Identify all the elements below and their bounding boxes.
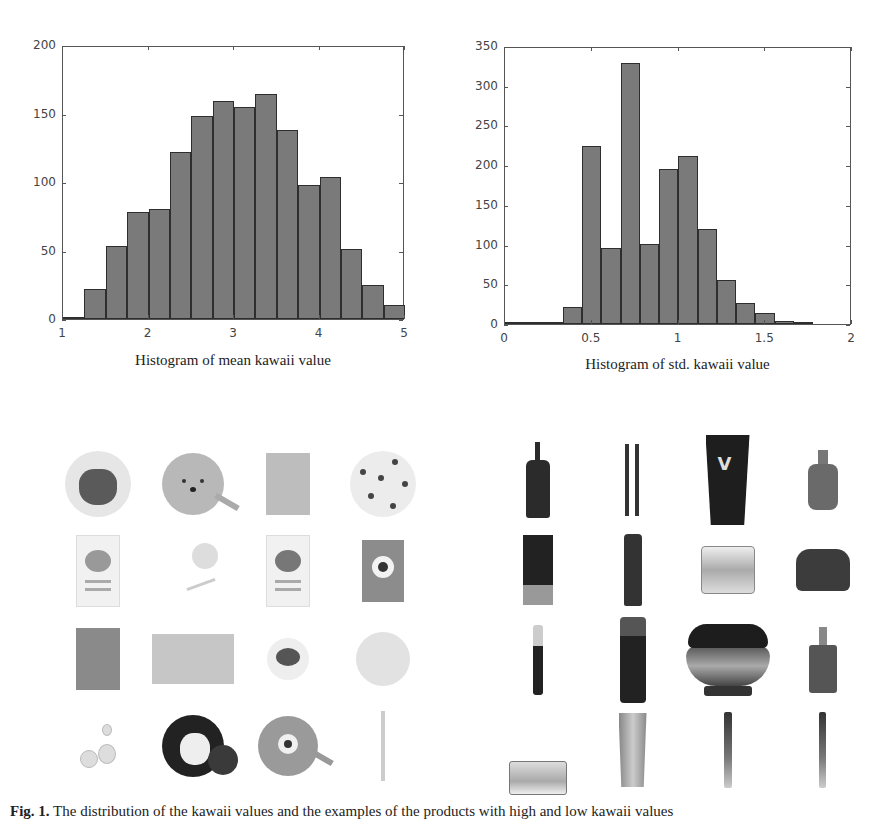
high-kawaii-product-grid [50, 440, 430, 790]
y-tick-mark [504, 126, 508, 127]
histogram-bar [582, 146, 601, 324]
product-image [490, 435, 585, 525]
x-tick-mark [764, 47, 765, 51]
x-tick-mark [591, 320, 592, 324]
figure-label: Fig. 1. [10, 803, 50, 819]
low-kawaii-product-grid: V [490, 435, 870, 795]
y-tick-mark [846, 166, 850, 167]
product-image [490, 615, 585, 705]
product-image [585, 705, 680, 795]
figure-caption-text: The distribution of the kawaii values an… [53, 803, 673, 819]
y-tick-mark [504, 166, 508, 167]
histogram-bar [717, 280, 736, 324]
histogram-bar [524, 322, 543, 324]
product-image [775, 525, 870, 615]
x-tick-mark [504, 47, 505, 51]
histogram-bar [601, 248, 620, 324]
y-tick-mark [504, 246, 508, 247]
product-image [240, 440, 335, 528]
product-image: V [680, 435, 775, 525]
product-image [240, 528, 335, 616]
y-tick-mark [846, 285, 850, 286]
product-image [585, 615, 680, 705]
histogram-bar [621, 63, 640, 324]
product-image [240, 703, 335, 791]
y-tick-label: 0 [462, 317, 498, 331]
product-image [145, 528, 240, 616]
y-tick-label: 100 [462, 238, 498, 252]
y-tick-mark [846, 325, 850, 326]
histogram-bar [794, 322, 813, 324]
histogram-bar [505, 322, 524, 324]
y-tick-label: 50 [462, 277, 498, 291]
plot-area [504, 47, 851, 325]
histogram-bar [563, 307, 582, 324]
product-image [680, 525, 775, 615]
y-tick-mark [504, 206, 508, 207]
x-tick-mark [851, 320, 852, 324]
product-image [490, 705, 585, 795]
x-tick-label: 0.5 [576, 331, 606, 345]
y-tick-mark [846, 47, 850, 48]
product-image [775, 705, 870, 795]
product-image [585, 435, 680, 525]
histogram-bar [698, 229, 717, 324]
x-tick-mark [591, 47, 592, 51]
product-image [145, 440, 240, 528]
histogram-bar [640, 244, 659, 324]
product-image [145, 703, 240, 791]
product-image [145, 615, 240, 703]
x-tick-mark [678, 47, 679, 51]
product-image [490, 525, 585, 615]
product-image [50, 440, 145, 528]
histogram-bar [678, 156, 697, 324]
x-tick-label: 1 [663, 331, 693, 345]
histogram-bar [775, 321, 794, 324]
y-tick-label: 300 [462, 79, 498, 93]
product-image [335, 440, 430, 528]
y-tick-mark [504, 285, 508, 286]
y-tick-label: 150 [462, 198, 498, 212]
product-image [335, 703, 430, 791]
y-tick-label: 200 [462, 158, 498, 172]
y-tick-mark [504, 87, 508, 88]
y-tick-mark [504, 325, 508, 326]
chart-caption: Histogram of std. kawaii value [504, 356, 851, 373]
product-image [50, 615, 145, 703]
product-image [775, 615, 870, 705]
y-tick-mark [846, 246, 850, 247]
histogram-bar [659, 169, 678, 324]
product-image [50, 703, 145, 791]
product-image [585, 525, 680, 615]
y-tick-mark [846, 206, 850, 207]
x-tick-mark [504, 320, 505, 324]
figure-caption: Fig. 1. The distribution of the kawaii v… [10, 803, 673, 820]
product-image [680, 705, 775, 795]
y-tick-label: 250 [462, 118, 498, 132]
y-tick-mark [846, 87, 850, 88]
x-tick-label: 2 [836, 331, 866, 345]
x-tick-mark [678, 320, 679, 324]
histogram-bar [544, 322, 563, 324]
y-tick-mark [846, 126, 850, 127]
x-tick-label: 1.5 [749, 331, 779, 345]
x-tick-mark [764, 320, 765, 324]
product-image [775, 435, 870, 525]
product-image [50, 528, 145, 616]
x-tick-mark [851, 47, 852, 51]
product-image [680, 615, 775, 705]
product-image [335, 528, 430, 616]
product-image [335, 615, 430, 703]
x-tick-label: 0 [489, 331, 519, 345]
histogram-bar [736, 303, 755, 324]
histogram-std-kawaii: 050100150200250300350 00.511.52 Histogra… [0, 0, 882, 400]
y-tick-label: 350 [462, 39, 498, 53]
product-image [240, 615, 335, 703]
